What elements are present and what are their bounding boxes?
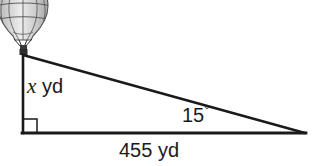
angle-label: 15° [182,103,209,125]
diagram-canvas: x yd 15° 455 yd [0,0,314,166]
height-variable: x [27,74,36,98]
right-triangle [22,55,306,133]
hot-air-balloon-icon [0,0,52,55]
angle-value: 15 [182,104,204,126]
degree-symbol: ° [204,102,209,117]
triangle-hypotenuse [23,55,305,133]
base-length-label: 455 yd [119,140,179,160]
base-unit: yd [158,139,179,161]
height-unit: yd [42,75,63,97]
right-angle-marker [23,119,37,133]
height-label: x yd [27,76,63,97]
base-value: 455 [119,139,152,161]
